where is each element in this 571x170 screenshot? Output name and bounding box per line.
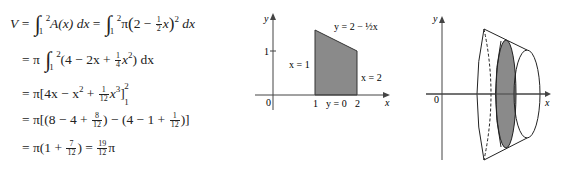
integrand: A(x) dx: [50, 16, 89, 31]
curve-label: y = 2 − ½x: [334, 21, 378, 32]
derivation-line-1: V = ∫21 A(x) dx = ∫21 π(2 − 12x)2 dx: [10, 14, 195, 34]
x-tick-label-2: 2: [355, 98, 360, 109]
volume-symbol: V: [10, 16, 18, 31]
y-axis-label: y: [432, 13, 438, 24]
y-axis-label: y: [263, 13, 269, 24]
equals-pi: = π: [22, 86, 40, 101]
solid-of-revolution-figure: y x 0: [420, 0, 571, 170]
expression: ) dx: [133, 52, 154, 67]
derivation-line-2: = π ∫21 (4 − 2x + 14x2) dx: [22, 50, 154, 70]
exponent: 2: [174, 14, 179, 24]
expression: [(8 − 4 +: [40, 112, 91, 127]
expression: (4 − 2x +: [61, 52, 114, 67]
integral-sign: ∫21: [106, 14, 112, 34]
x-axis-label: x: [544, 97, 550, 108]
fraction: 112: [99, 86, 109, 103]
differential: dx: [182, 16, 195, 31]
y-tick-label: 1: [264, 46, 269, 57]
expression: +: [83, 86, 97, 101]
fraction: 14: [115, 52, 121, 69]
origin-label: 0: [266, 97, 271, 108]
volume-derivation: V = ∫21 A(x) dx = ∫21 π(2 − 12x)2 dx = π…: [0, 0, 240, 170]
equals-sign: =: [22, 16, 30, 31]
fraction: 1912: [97, 140, 107, 157]
pi-symbol: π: [108, 140, 115, 155]
derivation-line-4: = π[(8 − 4 + 812) − (4 − 1 + 112)]: [22, 112, 190, 129]
expression: 2 −: [134, 16, 155, 31]
y-axis-arrow-icon: [439, 16, 445, 23]
equals-pi: = π: [22, 140, 40, 155]
equals-pi: = π: [22, 52, 40, 67]
fraction: 712: [66, 140, 76, 157]
x-axis-label: x: [384, 97, 390, 108]
expression: (1 +: [40, 140, 66, 155]
x-tick-label-1: 1: [313, 98, 318, 109]
derivation-line-3: = π[4x − x2 + 112x3]21: [22, 84, 125, 103]
fraction: 112: [170, 112, 180, 129]
expression: ) =: [77, 140, 96, 155]
expression: ) − (4 − 1 +: [103, 112, 169, 127]
equals-sign: =: [93, 16, 101, 31]
integral-sign: ∫21: [35, 14, 41, 34]
evaluation-bracket: ]21: [120, 86, 125, 102]
left-bound-label: x = 1: [289, 59, 310, 70]
fraction: 12: [156, 16, 162, 33]
integral-sign: ∫21: [45, 50, 51, 70]
pi-symbol: π: [121, 16, 128, 31]
right-bound-label: x = 2: [361, 72, 382, 83]
shaded-region: [315, 30, 357, 95]
origin-label: 0: [434, 94, 439, 105]
expression: [4x − x: [40, 86, 79, 101]
derivation-line-5: = π(1 + 712) = 1912π: [22, 140, 115, 157]
region-graph: y x 0 1 1 2 y = 2 − ½x x = 1 x = 2 y = 0: [240, 0, 420, 130]
expression: )]: [181, 112, 190, 127]
y-axis-arrow-icon: [270, 13, 276, 20]
equals-pi: = π: [22, 112, 40, 127]
bottom-bound-label: y = 0: [326, 98, 347, 109]
fraction: 812: [92, 112, 102, 129]
